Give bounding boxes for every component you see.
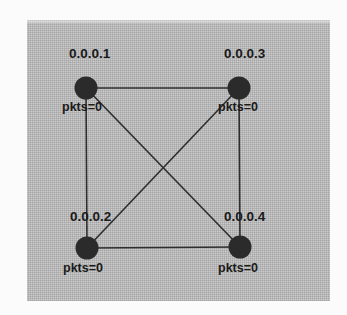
node-n3-pkts-label: pkts=0	[218, 101, 258, 114]
node-n1[interactable]	[75, 77, 98, 100]
edge-layer	[86, 88, 240, 248]
node-n2-ip-label: 0.0.0.2	[70, 210, 111, 224]
node-n2[interactable]	[76, 237, 99, 260]
node-n2-pkts-label: pkts=0	[63, 262, 103, 275]
node-n3[interactable]	[228, 77, 251, 100]
screenshot-root: 0.0.0.1 pkts=0 0.0.0.3 pkts=0 0.0.0.2 pk…	[0, 0, 347, 315]
edge-n2-n4	[87, 247, 240, 248]
node-n3-ip-label: 0.0.0.3	[224, 47, 265, 61]
node-n4-ip-label: 0.0.0.4	[224, 210, 265, 224]
node-n1-ip-label: 0.0.0.1	[69, 47, 110, 61]
node-n4[interactable]	[229, 236, 252, 259]
node-n4-pkts-label: pkts=0	[218, 262, 258, 275]
node-n1-pkts-label: pkts=0	[62, 101, 102, 114]
topology-graph	[0, 0, 347, 315]
